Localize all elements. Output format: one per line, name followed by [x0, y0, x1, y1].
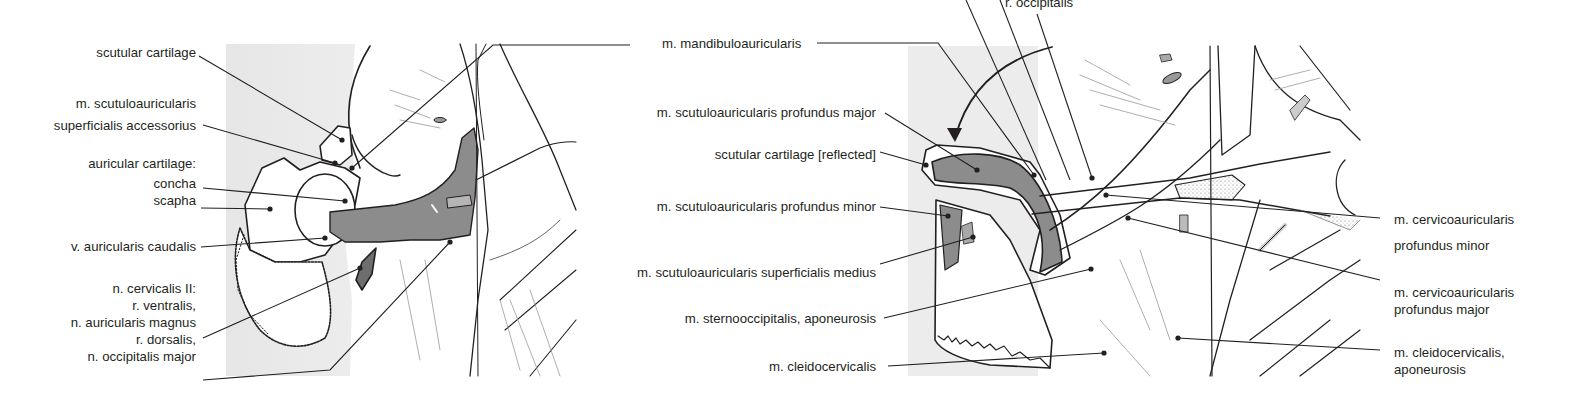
label-line: n. occipitalis major	[71, 348, 196, 365]
label-cleidocervicalis: m. cleidocervicalis	[769, 358, 876, 375]
label-line: m. cervicoauricularis	[1394, 211, 1514, 228]
label-n-cervicalis-ii: n. cervicalis II: r. ventralis, n. auric…	[71, 280, 196, 365]
label-line: n. auricularis magnus	[71, 314, 196, 331]
label-scapha: scapha	[88, 192, 196, 209]
label-v-auricularis-caudalis: v. auricularis caudalis	[71, 238, 196, 255]
label-line: m. scutuloauricularis	[54, 95, 196, 112]
label-cervicoauricularis-profundus-major: m. cervicoauricularis profundus major	[1394, 284, 1514, 318]
label-line: auricular cartilage:	[88, 155, 196, 172]
label-scutular-cartilage: scutular cartilage	[96, 44, 196, 61]
label-line: r. ventralis,	[71, 297, 196, 314]
label-concha: concha	[88, 175, 196, 192]
label-line: m. scutuloauricularis superficialis medi…	[637, 264, 876, 281]
label-line: profundus major	[1394, 301, 1514, 318]
label-scutuloauricularis-superficialis-medius: m. scutuloauricularis superficialis medi…	[637, 264, 876, 281]
label-cervicoauricularis-profundus-minor: m. cervicoauricularis profundus minor	[1394, 211, 1514, 254]
label-line: profundus minor	[1394, 237, 1514, 254]
label-line: m. scutuloauricularis profundus minor	[657, 198, 876, 215]
label-scutuloauricularis-profundus-minor: m. scutuloauricularis profundus minor	[657, 198, 876, 215]
label-scutuloauricularis-profundus-major: m. scutuloauricularis profundus major	[657, 104, 876, 121]
label-line: superficialis accessorius	[54, 117, 196, 134]
label-line: v. auricularis caudalis	[71, 238, 196, 255]
label-line: m. sternooccipitalis, aponeurosis	[685, 310, 876, 327]
left-panel-drawing	[226, 44, 576, 376]
label-r-occipitalis: r. occipitalis	[1005, 0, 1073, 11]
label-mandibuloauricularis: m. mandibuloauricularis	[662, 35, 801, 52]
label-line: m. scutuloauricularis profundus major	[657, 104, 876, 121]
label-line: m. cleidocervicalis	[769, 358, 876, 375]
label-line: scutular cartilage [reflected]	[715, 146, 876, 163]
label-line: m. cleidocervicalis,	[1394, 344, 1505, 361]
label-auricular-cartilage: auricular cartilage: concha scapha	[88, 155, 196, 209]
label-line: r. occipitalis	[1005, 0, 1073, 11]
label-line: aponeurosis	[1394, 361, 1505, 378]
label-line: r. dorsalis,	[71, 331, 196, 348]
label-line: m. cervicoauricularis	[1394, 284, 1514, 301]
label-scutular-cartilage-reflected: scutular cartilage [reflected]	[715, 146, 876, 163]
label-line: m. mandibuloauricularis	[662, 35, 801, 52]
label-line: scutular cartilage	[96, 44, 196, 61]
label-line: n. cervicalis II:	[71, 280, 196, 297]
label-sternooccipitalis-aponeurosis: m. sternooccipitalis, aponeurosis	[685, 310, 876, 327]
label-scutuloauricularis-superficialis-accessorius: m. scutuloauricularis superficialis acce…	[54, 95, 196, 134]
label-cleidocervicalis-aponeurosis: m. cleidocervicalis, aponeurosis	[1394, 344, 1505, 378]
